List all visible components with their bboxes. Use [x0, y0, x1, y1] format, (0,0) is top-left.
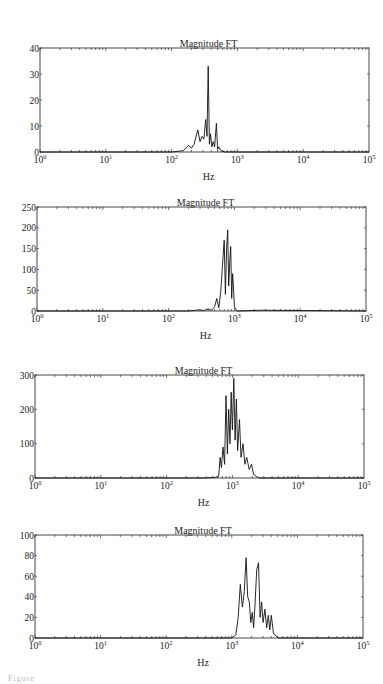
y-tick-label: 80	[25, 551, 35, 561]
x-tick-label: 104	[292, 479, 306, 491]
x-tick-label: 105	[358, 479, 371, 491]
y-tick-label: 40	[30, 44, 40, 54]
x-tick-label: 104	[297, 153, 311, 165]
x-tick-label: 101	[99, 153, 112, 165]
x-tick-label: 102	[162, 312, 175, 324]
figure-caption-partial: Figure	[8, 674, 35, 683]
x-tick-label: 100	[29, 639, 42, 651]
x-tick-label: 104	[291, 639, 305, 651]
x-tick-label: 102	[165, 153, 178, 165]
y-tick-label: 100	[20, 439, 35, 449]
x-tick-label: 101	[94, 479, 107, 491]
chart-title: Magnitude FT	[180, 38, 238, 49]
y-tick-label: 250	[22, 203, 37, 213]
x-tick-label: 105	[357, 639, 370, 651]
x-tick-label: 103	[226, 479, 239, 491]
x-tick-label: 100	[34, 153, 47, 165]
x-tick-label: 102	[160, 479, 173, 491]
x-tick-label: 103	[231, 153, 244, 165]
x-tick-label: 103	[228, 312, 241, 324]
y-tick-label: 50	[27, 286, 37, 296]
x-axis-label: Hz	[198, 497, 210, 508]
plot-frame	[37, 207, 366, 311]
y-tick-label: 100	[20, 531, 35, 541]
x-tick-label: 104	[294, 312, 308, 324]
x-axis-label: Hz	[197, 657, 209, 668]
x-axis-label: Hz	[200, 330, 212, 341]
y-tick-label: 100	[22, 265, 37, 275]
y-tick-label: 20	[25, 613, 35, 623]
chart-panel-2: 050100150200250100101102103104105Magnitu…	[22, 197, 373, 341]
chart-panel-1: 010203040100101102103104105Magnitude FTH…	[30, 38, 376, 182]
chart-panel-3: 0100200300100101102103104105Magnitude FT…	[20, 365, 371, 508]
y-tick-label: 150	[22, 244, 37, 254]
spectrum-line	[35, 378, 364, 478]
y-tick-label: 200	[20, 405, 35, 415]
spectrum-line	[40, 66, 369, 152]
x-tick-label: 105	[363, 153, 376, 165]
chart-title: Magnitude FT	[174, 525, 232, 536]
chart-panel-4: 020406080100100101102103104105Magnitude …	[20, 525, 370, 668]
plot-frame	[35, 535, 363, 638]
y-tick-label: 200	[22, 223, 37, 233]
y-tick-label: 20	[30, 96, 40, 106]
x-tick-label: 102	[160, 639, 173, 651]
y-tick-label: 300	[20, 371, 35, 381]
y-tick-label: 10	[30, 122, 40, 132]
x-tick-label: 100	[31, 312, 44, 324]
x-tick-label: 101	[96, 312, 109, 324]
x-axis-label: Hz	[203, 171, 215, 182]
x-tick-label: 101	[94, 639, 107, 651]
x-tick-label: 100	[29, 479, 42, 491]
chart-title: Magnitude FT	[177, 197, 235, 208]
spectrum-line	[37, 230, 366, 311]
spectrum-line	[35, 558, 363, 638]
x-tick-label: 105	[360, 312, 373, 324]
y-tick-label: 30	[30, 70, 40, 80]
figure-svg: 010203040100101102103104105Magnitude FTH…	[0, 0, 383, 684]
y-tick-label: 40	[25, 592, 35, 602]
plot-frame	[35, 375, 364, 478]
chart-title: Magnitude FT	[175, 365, 233, 376]
x-tick-label: 103	[225, 639, 238, 651]
y-tick-label: 60	[25, 572, 35, 582]
